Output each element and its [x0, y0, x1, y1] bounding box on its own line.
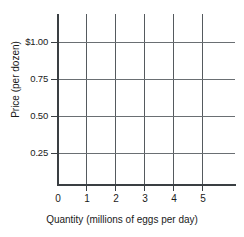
y-tick-label-0-50: 0.50 [30, 111, 48, 121]
y-axis-title: Price (per dozen) [10, 10, 21, 150]
y-tick-mark-0-75 [51, 79, 58, 80]
y-tick-mark-1-00 [51, 42, 58, 43]
gridline-vertical-5 [202, 14, 203, 184]
gridline-vertical-1 [86, 14, 87, 184]
x-tick-mark-3 [144, 186, 145, 191]
x-axis-title: Quantity (millions of eggs per day) [0, 214, 244, 225]
x-tick-label-5: 5 [193, 193, 213, 204]
gridline-vertical-2 [115, 14, 116, 184]
x-tick-mark-1 [86, 186, 87, 191]
x-tick-label-2: 2 [106, 193, 126, 204]
y-tick-mark-0-50 [51, 116, 58, 117]
y-tick-label-0-25: 0.25 [30, 148, 48, 158]
gridline-horizontal-1-00 [57, 42, 235, 43]
y-tick-label-1-00: $1.00 [25, 37, 48, 47]
x-tick-label-0: 0 [48, 193, 68, 204]
x-tick-mark-5 [202, 186, 203, 191]
gridline-vertical-3 [144, 14, 145, 184]
gridline-horizontal-0-25 [57, 153, 235, 154]
x-tick-label-4: 4 [164, 193, 184, 204]
y-tick-mark-0-25 [51, 153, 58, 154]
x-axis-line [57, 184, 236, 186]
chart-figure: $1.00 0.75 0.50 0.25 0 1 2 3 4 5 Price (… [0, 0, 244, 237]
x-tick-mark-4 [173, 186, 174, 191]
plot-area [57, 14, 235, 184]
gridline-horizontal-0-75 [57, 79, 235, 80]
x-tick-label-3: 3 [135, 193, 155, 204]
y-axis-line [57, 14, 59, 185]
x-tick-label-1: 1 [77, 193, 97, 204]
gridline-vertical-4 [173, 14, 174, 184]
y-tick-label-0-75: 0.75 [30, 74, 48, 84]
gridline-horizontal-0-50 [57, 116, 235, 117]
x-tick-mark-2 [115, 186, 116, 191]
